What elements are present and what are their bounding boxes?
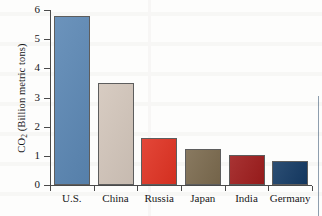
- bar-china: [98, 83, 134, 185]
- x-label-japan: Japan: [181, 192, 225, 205]
- co2-emissions-bar-chart: CO2 (Billion metric tons) 0123456 U.S.Ch…: [0, 0, 322, 216]
- bar-japan: [185, 149, 221, 185]
- y-tick-label-2: 2: [20, 121, 40, 132]
- x-label-u-s: U.S.: [50, 192, 94, 205]
- x-label-russia: Russia: [137, 192, 181, 205]
- bar-india: [229, 155, 265, 185]
- bar-germany: [272, 161, 308, 186]
- y-tick-label-0: 0: [20, 179, 40, 190]
- y-tick-label-4: 4: [20, 62, 40, 73]
- x-tick-5: [268, 186, 269, 191]
- y-axis-title-subscript: 2: [20, 134, 29, 138]
- bar-russia: [141, 138, 177, 185]
- x-tick-6: [312, 186, 313, 191]
- y-tick-label-3: 3: [20, 92, 40, 103]
- bar-u-s: [54, 16, 90, 185]
- x-tick-0: [50, 186, 51, 191]
- x-tick-3: [181, 186, 182, 191]
- x-label-germany: Germany: [268, 192, 312, 205]
- x-tick-4: [225, 186, 226, 191]
- plot-area: [50, 10, 312, 185]
- x-tick-1: [94, 186, 95, 191]
- page-edge-artifact: [318, 96, 319, 216]
- y-tick-label-5: 5: [20, 33, 40, 44]
- y-tick-label-1: 1: [20, 150, 40, 161]
- x-label-china: China: [94, 192, 138, 205]
- y-tick-label-6: 6: [20, 4, 40, 15]
- x-tick-2: [137, 186, 138, 191]
- x-label-india: India: [225, 192, 269, 205]
